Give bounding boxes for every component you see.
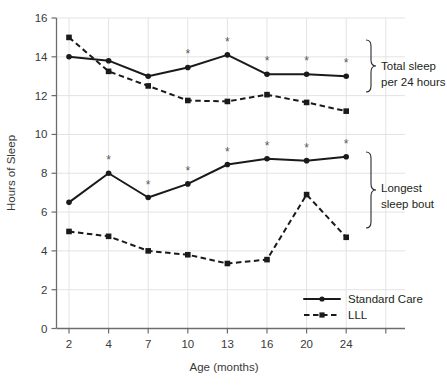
data-point-lll-16mo <box>264 92 270 98</box>
data-point-lll-13mo <box>225 261 231 267</box>
significance-star-4mo-longest-bout: * <box>106 153 111 167</box>
significance-star-10mo-total-sleep: * <box>185 47 190 61</box>
data-point-standard-care-4mo <box>106 58 112 64</box>
data-point-lll-2mo <box>66 229 72 235</box>
brace-longest-bout <box>366 152 376 228</box>
annotation-longest-bout-line2: sleep bout <box>381 198 435 210</box>
data-point-standard-care-2mo <box>66 54 72 60</box>
data-point-standard-care-10mo <box>185 181 191 187</box>
annotation-longest-bout-line1: Longest <box>381 182 423 194</box>
legend-label-standard-care: Standard Care <box>348 293 423 305</box>
x-tick-label: 2 <box>66 338 72 350</box>
significance-star-24mo-total-sleep: * <box>344 56 349 70</box>
data-point-lll-20mo <box>304 192 310 198</box>
x-tick-label: 24 <box>340 338 353 350</box>
x-tick-marks <box>69 329 386 334</box>
data-point-standard-care-2mo <box>66 200 72 206</box>
data-point-lll-4mo <box>106 234 112 240</box>
y-tick-label: 10 <box>35 128 48 140</box>
data-point-lll-7mo <box>145 83 151 89</box>
data-point-standard-care-13mo <box>225 162 231 168</box>
data-point-lll-10mo <box>185 252 191 258</box>
x-axis-title: Age (months) <box>189 361 258 373</box>
data-point-standard-care-24mo <box>343 154 349 160</box>
y-tick-label: 14 <box>35 51 48 63</box>
brace-total-sleep <box>366 40 376 92</box>
y-tick-marks <box>52 18 57 329</box>
significance-star-16mo-total-sleep: * <box>265 54 270 68</box>
data-point-lll-24mo <box>343 234 349 240</box>
data-point-lll-16mo <box>264 257 270 263</box>
legend-marker-lll <box>319 312 324 317</box>
significance-star-20mo-total-sleep: * <box>304 54 309 68</box>
annotation-total-sleep-line2: per 24 hours <box>381 76 446 88</box>
significance-star-24mo-longest-bout: * <box>344 137 349 151</box>
data-point-lll-24mo <box>343 108 349 114</box>
data-point-lll-13mo <box>225 99 231 105</box>
series-line-lll-longest-bout <box>69 195 346 264</box>
y-tick-label: 2 <box>41 284 47 296</box>
x-tick-label: 13 <box>221 338 234 350</box>
data-point-standard-care-20mo <box>304 71 310 77</box>
data-point-standard-care-16mo <box>264 71 270 77</box>
data-point-standard-care-13mo <box>225 52 231 58</box>
data-point-standard-care-7mo <box>145 73 151 79</box>
data-point-standard-care-20mo <box>304 158 310 164</box>
y-axis-title: Hours of Sleep <box>5 135 17 211</box>
data-point-lll-4mo <box>106 69 112 75</box>
chart-legend: Standard Care LLL <box>304 293 423 321</box>
data-point-lll-7mo <box>145 248 151 254</box>
significance-star-13mo-total-sleep: * <box>225 35 230 49</box>
data-point-lll-10mo <box>185 98 191 104</box>
data-point-standard-care-16mo <box>264 156 270 162</box>
y-tick-label: 6 <box>41 206 47 218</box>
y-tick-labels: 0246810121416 <box>35 12 48 335</box>
y-tick-label: 0 <box>41 323 47 335</box>
significance-star-13mo-longest-bout: * <box>225 145 230 159</box>
data-point-standard-care-7mo <box>145 195 151 201</box>
legend-label-lll: LLL <box>348 309 368 321</box>
x-tick-label: 7 <box>145 338 151 350</box>
significance-star-7mo-longest-bout: * <box>146 178 151 192</box>
x-tick-label: 10 <box>181 338 194 350</box>
significance-star-10mo-longest-bout: * <box>185 164 190 178</box>
y-tick-label: 12 <box>35 90 48 102</box>
annotation-total-sleep-line1: Total sleep <box>381 60 436 72</box>
chart-canvas: 0246810121416 2471013162024 ************… <box>0 0 447 386</box>
y-tick-label: 8 <box>41 167 47 179</box>
data-point-standard-care-4mo <box>106 170 112 176</box>
x-tick-label: 20 <box>300 338 313 350</box>
y-tick-label: 16 <box>35 12 48 24</box>
data-point-lll-20mo <box>304 100 310 106</box>
data-point-lll-2mo <box>66 35 72 41</box>
sleep-chart-figure: 0246810121416 2471013162024 ************… <box>0 0 447 386</box>
x-tick-label: 4 <box>105 338 112 350</box>
x-tick-label: 16 <box>261 338 274 350</box>
data-point-standard-care-10mo <box>185 65 191 71</box>
x-tick-labels: 2471013162024 <box>66 338 353 350</box>
data-point-standard-care-24mo <box>343 73 349 79</box>
y-tick-label: 4 <box>41 245 48 257</box>
legend-marker-standard-care <box>319 296 324 301</box>
significance-star-16mo-longest-bout: * <box>265 139 270 153</box>
significance-star-20mo-longest-bout: * <box>304 141 309 155</box>
